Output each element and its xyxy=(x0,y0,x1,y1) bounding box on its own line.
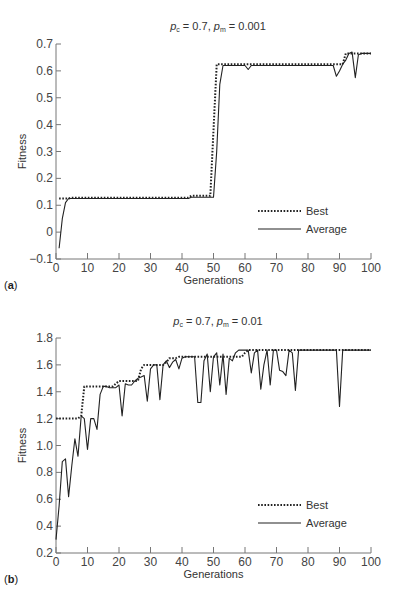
y-tick-label: 0.2 xyxy=(36,546,53,560)
y-tick-label: −0.1 xyxy=(29,252,53,266)
x-tick-label: 60 xyxy=(238,261,252,275)
x-tick-label: 100 xyxy=(361,261,381,275)
chart-title: pc = 0.7, pm = 0.001 xyxy=(169,20,266,33)
x-tick-label: 80 xyxy=(301,555,315,569)
y-tick-label: 1.2 xyxy=(36,412,53,426)
y-tick-label: 0.2 xyxy=(36,171,53,185)
y-tick-label: 0.1 xyxy=(36,198,53,212)
x-tick-label: 20 xyxy=(112,261,126,275)
x-tick-label: 40 xyxy=(175,261,189,275)
y-axis-label: Fitness xyxy=(16,427,28,463)
x-tick-label: 20 xyxy=(112,555,126,569)
legend-label-average: Average xyxy=(306,223,347,235)
x-tick-label: 90 xyxy=(333,261,347,275)
y-tick-label: 1.6 xyxy=(36,358,53,372)
y-tick-label: 0.6 xyxy=(36,64,53,78)
y-tick-label: 1.0 xyxy=(36,439,53,453)
panel-label: (a) xyxy=(4,279,17,291)
x-axis-label: Generations xyxy=(184,568,244,580)
x-tick-label: 100 xyxy=(361,555,381,569)
x-tick-label: 80 xyxy=(301,261,315,275)
x-tick-label: 30 xyxy=(144,261,158,275)
y-axis-label: Fitness xyxy=(16,133,28,169)
x-tick-label: 40 xyxy=(175,555,189,569)
x-tick-label: 0 xyxy=(53,261,60,275)
x-tick-label: 0 xyxy=(53,555,60,569)
x-tick-label: 70 xyxy=(270,555,284,569)
figure: −0.100.10.20.30.40.50.60.701020304050607… xyxy=(0,0,397,606)
y-tick-label: 1.8 xyxy=(36,331,53,345)
panel-label: (b) xyxy=(4,573,18,585)
chart-title: pc = 0.7, pm = 0.01 xyxy=(172,315,263,328)
x-tick-label: 60 xyxy=(238,555,252,569)
y-tick-label: 0 xyxy=(46,225,53,239)
x-tick-label: 70 xyxy=(270,261,284,275)
y-tick-label: 0.6 xyxy=(36,492,53,506)
chart-a-fitness-pm-0.001: −0.100.10.20.30.40.50.60.701020304050607… xyxy=(4,20,381,291)
y-tick-label: 1.4 xyxy=(36,385,53,399)
x-tick-label: 30 xyxy=(144,555,158,569)
y-tick-label: 0.8 xyxy=(36,465,53,479)
chart-b-fitness-pm-0.01: 0.20.40.60.81.01.21.41.61.80102030405060… xyxy=(4,315,381,585)
y-tick-label: 0.4 xyxy=(36,519,53,533)
x-tick-label: 10 xyxy=(81,555,95,569)
y-tick-label: 0.4 xyxy=(36,118,53,132)
x-tick-label: 90 xyxy=(333,555,347,569)
y-tick-label: 0.3 xyxy=(36,145,53,159)
x-tick-label: 50 xyxy=(207,555,221,569)
x-axis-label: Generations xyxy=(184,274,244,286)
x-tick-label: 50 xyxy=(207,261,221,275)
x-tick-label: 10 xyxy=(81,261,95,275)
legend-label-average: Average xyxy=(306,517,347,529)
legend-label-best: Best xyxy=(306,499,328,511)
series-average xyxy=(56,350,371,539)
legend-label-best: Best xyxy=(306,205,328,217)
y-tick-label: 0.7 xyxy=(36,37,53,51)
y-tick-label: 0.5 xyxy=(36,91,53,105)
